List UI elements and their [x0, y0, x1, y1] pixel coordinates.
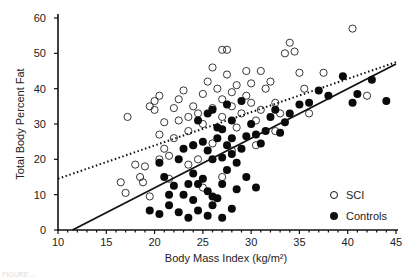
- data-point: [124, 113, 131, 120]
- data-point: [223, 166, 231, 174]
- series-sci: [117, 25, 370, 200]
- y-tick-label: 60: [34, 12, 46, 24]
- data-point: [233, 185, 241, 193]
- data-point: [161, 145, 168, 152]
- data-point: [267, 78, 274, 85]
- x-tick-label: 25: [197, 236, 209, 248]
- data-point: [175, 96, 182, 103]
- data-point: [349, 99, 357, 107]
- data-point: [353, 90, 361, 98]
- data-point: [219, 173, 226, 180]
- data-point: [180, 191, 188, 199]
- legend-item-controls: Controls: [330, 210, 387, 222]
- data-point: [204, 212, 212, 220]
- data-point: [233, 82, 240, 89]
- data-point: [146, 193, 153, 200]
- data-point: [271, 106, 279, 114]
- data-point: [262, 85, 269, 92]
- y-tick-label: 10: [34, 189, 46, 201]
- y-tick-label: 20: [34, 153, 46, 165]
- data-point: [141, 163, 148, 170]
- data-point: [248, 99, 255, 106]
- data-point: [146, 207, 154, 215]
- data-point: [184, 214, 192, 222]
- data-point: [223, 71, 230, 78]
- x-tick-label: 35: [293, 236, 305, 248]
- data-point: [237, 145, 245, 153]
- sci-regression-line: [58, 62, 396, 179]
- data-point: [382, 97, 390, 105]
- x-tick-label: 30: [245, 236, 257, 248]
- legend-label-controls: Controls: [346, 210, 387, 222]
- data-point: [199, 138, 207, 146]
- data-point: [156, 92, 163, 99]
- data-point: [228, 134, 236, 142]
- legend-item-sci: SCI: [331, 189, 365, 201]
- data-point: [305, 110, 312, 117]
- data-point: [180, 87, 187, 94]
- data-point: [204, 147, 212, 155]
- y-tick-label: 0: [40, 224, 46, 236]
- data-point: [242, 173, 250, 181]
- x-tick-label: 15: [100, 236, 112, 248]
- data-point: [156, 131, 163, 138]
- data-point: [257, 139, 265, 147]
- y-axis-title: Total Body Percent Fat: [14, 68, 26, 179]
- data-point: [189, 141, 197, 149]
- data-point: [194, 207, 202, 215]
- y-tick-label: 30: [34, 118, 46, 130]
- data-point: [320, 69, 327, 76]
- data-point: [247, 120, 255, 128]
- data-point: [266, 113, 274, 121]
- data-point: [305, 99, 313, 107]
- x-axis-title: Body Mass Index (kg/m²): [165, 252, 287, 264]
- scatter-chart: 10152025303540450102030405060 Total Body…: [0, 0, 418, 280]
- data-point: [185, 113, 192, 120]
- data-point: [175, 208, 183, 216]
- x-tick-label: 10: [52, 236, 64, 248]
- data-point: [223, 101, 231, 109]
- data-point: [223, 141, 231, 149]
- data-point: [243, 67, 250, 74]
- data-point: [132, 161, 139, 168]
- data-point: [233, 124, 240, 131]
- data-point: [295, 101, 303, 109]
- data-point: [194, 110, 201, 117]
- data-point: [165, 191, 173, 199]
- legend: SCI Controls: [330, 189, 387, 222]
- data-point: [209, 64, 216, 71]
- data-point: [228, 89, 235, 96]
- data-point: [185, 161, 192, 168]
- legend-label-sci: SCI: [346, 189, 364, 201]
- data-point: [160, 173, 168, 181]
- data-point: [233, 159, 241, 167]
- x-tick-label: 45: [390, 236, 402, 248]
- data-point: [199, 175, 207, 183]
- data-point: [214, 85, 221, 92]
- data-point: [209, 201, 217, 209]
- data-point: [184, 180, 192, 188]
- data-point: [170, 105, 177, 112]
- y-tick-label: 50: [34, 47, 46, 59]
- x-tick-label: 20: [148, 236, 160, 248]
- data-point: [122, 189, 129, 196]
- data-point: [209, 192, 217, 200]
- data-point: [219, 113, 226, 120]
- data-point: [213, 134, 221, 142]
- data-point: [175, 117, 182, 124]
- data-point: [228, 205, 236, 213]
- open-circle-marker-icon: [331, 192, 338, 199]
- data-point: [194, 156, 201, 163]
- controls-regression-line: [72, 64, 396, 230]
- data-point: [281, 50, 288, 57]
- data-point: [194, 116, 202, 124]
- data-point: [286, 39, 293, 46]
- data-point: [180, 145, 188, 153]
- data-point: [218, 214, 226, 222]
- data-point: [175, 155, 183, 163]
- data-point: [151, 106, 158, 113]
- data-point: [363, 92, 370, 99]
- data-point: [161, 119, 168, 126]
- data-point: [252, 184, 260, 192]
- data-point: [204, 109, 212, 117]
